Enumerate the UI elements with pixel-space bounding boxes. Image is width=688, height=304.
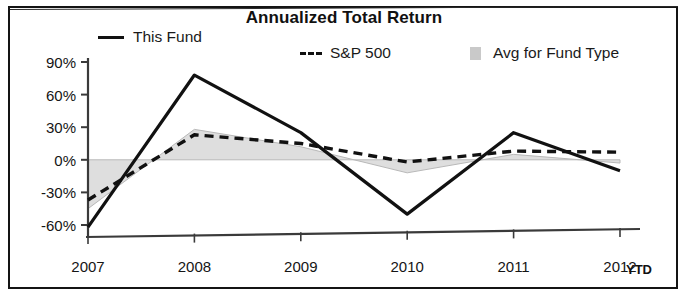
- ytd-note: YTD: [626, 262, 652, 277]
- x-axis-tick-label: 2009: [284, 258, 317, 275]
- x-axis-tick-label: 2010: [391, 258, 424, 275]
- x-axis-tick-label: 2011: [497, 258, 529, 275]
- x-axis-line: [86, 229, 640, 237]
- x-axis-tick-label: 2008: [178, 258, 211, 275]
- x-axis-tick-label: 2007: [71, 258, 104, 275]
- chart-screenshot: Annualized Total Return This Fund S&P 50…: [0, 0, 688, 304]
- series-line-sp500: [88, 135, 620, 200]
